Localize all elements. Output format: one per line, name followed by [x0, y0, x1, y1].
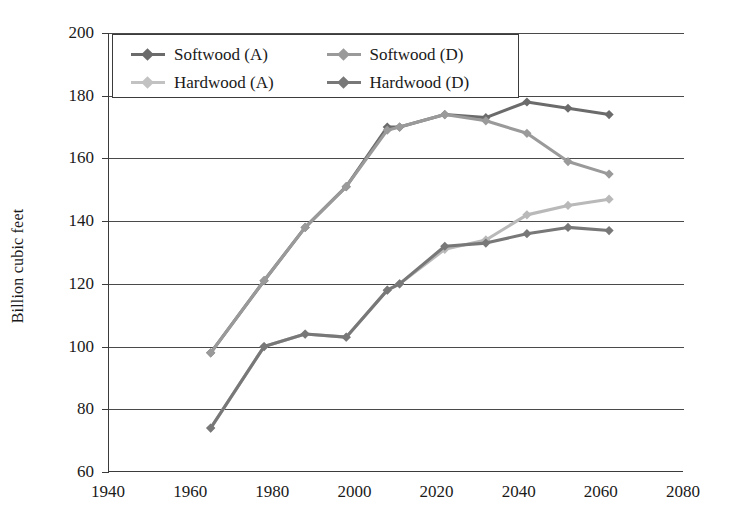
chart-container: Billion cubic feet 608010012014016018020… — [0, 0, 749, 532]
data-point-marker — [604, 110, 613, 119]
legend-label: Hardwood (D) — [370, 74, 470, 91]
series-line — [211, 227, 609, 428]
legend: Softwood (A)Softwood (D)Hardwood (A)Hard… — [112, 34, 519, 98]
series-line — [211, 102, 609, 353]
data-point-marker — [563, 201, 572, 210]
data-point-marker — [563, 104, 572, 113]
data-point-marker — [395, 122, 404, 131]
legend-marker-icon — [131, 47, 165, 61]
legend-item-softwood-a[interactable]: Softwood (A) — [123, 40, 321, 68]
legend-item-softwood-d[interactable]: Softwood (D) — [321, 40, 519, 68]
data-point-marker — [522, 97, 531, 106]
series-softwood-d — [206, 110, 614, 358]
legend-label: Hardwood (A) — [174, 74, 274, 91]
data-point-marker — [563, 223, 572, 232]
data-point-marker — [604, 226, 613, 235]
series-hardwood-d — [206, 223, 614, 433]
series-softwood-a — [206, 97, 614, 357]
legend-marker-icon — [131, 75, 165, 89]
series-line — [211, 199, 609, 428]
data-point-marker — [440, 110, 449, 119]
legend-marker-icon — [327, 75, 361, 89]
legend-label: Softwood (A) — [174, 46, 268, 63]
legend-item-hardwood-d[interactable]: Hardwood (D) — [321, 68, 519, 96]
legend-marker-icon — [327, 47, 361, 61]
data-point-marker — [522, 229, 531, 238]
data-point-marker — [604, 170, 613, 179]
series-line — [211, 115, 609, 353]
data-point-marker — [604, 195, 613, 204]
data-point-marker — [301, 329, 310, 338]
legend-label: Softwood (D) — [370, 46, 464, 63]
legend-item-hardwood-a[interactable]: Hardwood (A) — [123, 68, 321, 96]
